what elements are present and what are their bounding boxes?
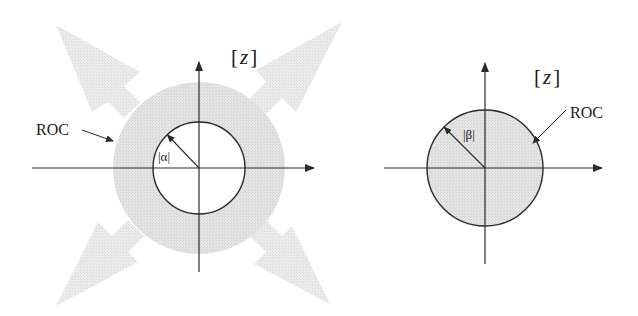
plane-variable: z bbox=[239, 45, 248, 69]
outward-arrow-bottom-right-icon bbox=[250, 220, 330, 304]
roc-label: ROC bbox=[570, 104, 603, 121]
plane-bracket-close: ] bbox=[553, 65, 560, 89]
outward-arrow-bottom-left-icon bbox=[56, 220, 144, 306]
plane-bracket-open: [ bbox=[231, 45, 238, 69]
roc-label: ROC bbox=[36, 121, 69, 138]
left-panel: ROC |α| [z] bbox=[32, 22, 342, 306]
roc-pointer-arrow bbox=[533, 110, 566, 143]
radius-alpha-label: |α| bbox=[158, 149, 170, 164]
plane-bracket-close: ] bbox=[250, 45, 257, 69]
radius-beta-label: |β| bbox=[463, 127, 475, 142]
outward-arrow-top-right-icon bbox=[250, 22, 342, 114]
plane-variable: z bbox=[542, 65, 551, 89]
roc-pointer-arrow bbox=[82, 130, 113, 141]
roc-figure: ROC |α| [z] ROC |β| [z] bbox=[0, 0, 638, 316]
plane-bracket-open: [ bbox=[534, 65, 541, 89]
z-plane-label: [z] bbox=[231, 45, 257, 69]
z-plane-label: [z] bbox=[534, 65, 560, 89]
right-panel: ROC |β| [z] bbox=[384, 63, 603, 264]
outward-arrow-top-left-icon bbox=[56, 25, 140, 118]
